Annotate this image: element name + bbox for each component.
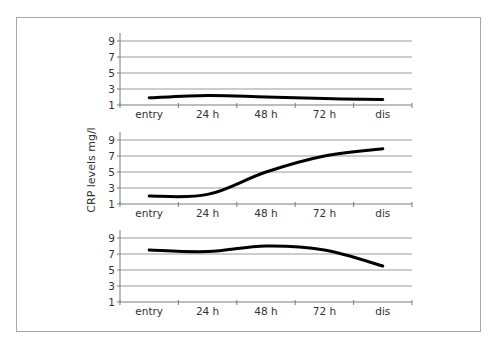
x-tick-label: 72 h bbox=[313, 207, 336, 219]
x-tick-label: entry bbox=[135, 207, 163, 219]
x-tick-label: dis bbox=[375, 207, 390, 219]
y-tick-label: 7 bbox=[108, 150, 115, 162]
panel-bottom: 13579entry24 h48 h72 hdis bbox=[108, 230, 412, 317]
x-tick-label: 48 h bbox=[254, 305, 277, 317]
y-tick-label: 1 bbox=[108, 296, 115, 308]
panel-top: 13579entry24 h48 h72 hdis bbox=[108, 33, 412, 120]
crp-small-multiples-chart: 13579entry24 h48 h72 hdis13579entry24 h4… bbox=[0, 0, 495, 349]
x-tick-label: dis bbox=[375, 305, 390, 317]
panel-middle: 13579entry24 h48 h72 hdis bbox=[108, 132, 412, 219]
x-tick-label: 72 h bbox=[313, 108, 336, 120]
x-tick-label: entry bbox=[135, 305, 163, 317]
x-tick-label: 72 h bbox=[313, 305, 336, 317]
y-tick-label: 1 bbox=[108, 99, 115, 111]
x-tick-label: 24 h bbox=[196, 108, 219, 120]
x-tick-label: dis bbox=[375, 108, 390, 120]
y-tick-label: 3 bbox=[108, 83, 115, 95]
x-tick-label: 24 h bbox=[196, 207, 219, 219]
y-tick-label: 7 bbox=[108, 248, 115, 260]
y-tick-label: 3 bbox=[108, 280, 115, 292]
x-tick-label: 48 h bbox=[254, 108, 277, 120]
x-tick-label: 48 h bbox=[254, 207, 277, 219]
y-tick-label: 3 bbox=[108, 182, 115, 194]
y-tick-label: 9 bbox=[108, 232, 115, 244]
y-tick-label: 5 bbox=[108, 166, 115, 178]
y-tick-label: 7 bbox=[108, 51, 115, 63]
y-tick-label: 1 bbox=[108, 198, 115, 210]
y-tick-label: 5 bbox=[108, 264, 115, 276]
y-tick-label: 9 bbox=[108, 35, 115, 47]
y-tick-label: 5 bbox=[108, 67, 115, 79]
series-line-top bbox=[149, 95, 383, 99]
x-tick-label: 24 h bbox=[196, 305, 219, 317]
y-axis-title: CRP levels mg/l bbox=[85, 127, 98, 212]
series-line-bottom bbox=[149, 246, 383, 266]
x-tick-label: entry bbox=[135, 108, 163, 120]
y-tick-label: 9 bbox=[108, 134, 115, 146]
